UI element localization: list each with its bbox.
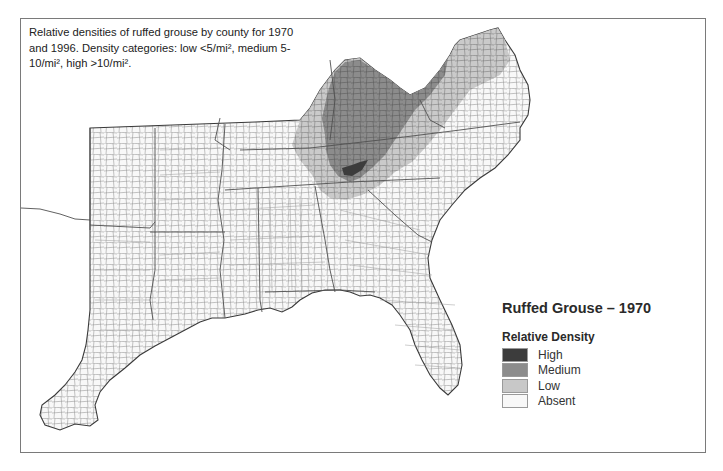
legend-label-high: High bbox=[538, 348, 563, 362]
legend-title: Ruffed Grouse – 1970 bbox=[502, 300, 692, 316]
legend-item-high: High bbox=[502, 347, 692, 363]
map-legend: Ruffed Grouse – 1970 Relative Density Hi… bbox=[502, 300, 692, 409]
legend-item-absent: Absent bbox=[502, 394, 692, 410]
caption-line-1: Relative densities of ruffed grouse by c… bbox=[29, 26, 293, 38]
legend-label-absent: Absent bbox=[538, 394, 575, 408]
swatch-high bbox=[502, 348, 528, 362]
swatch-low bbox=[502, 379, 528, 393]
oklahoma-border bbox=[21, 208, 90, 220]
legend-label-low: Low bbox=[538, 379, 560, 393]
legend-item-medium: Medium bbox=[502, 363, 692, 379]
swatch-absent bbox=[502, 394, 528, 408]
swatch-medium bbox=[502, 363, 528, 377]
figure-caption: Relative densities of ruffed grouse by c… bbox=[29, 25, 299, 72]
legend-label-medium: Medium bbox=[538, 363, 581, 377]
caption-line-3: 10/mi², high >10/mi². bbox=[29, 57, 131, 69]
legend-subtitle: Relative Density bbox=[502, 330, 692, 344]
legend-item-low: Low bbox=[502, 378, 692, 394]
caption-line-2: and 1996. Density categories: low <5/mi²… bbox=[29, 42, 290, 54]
